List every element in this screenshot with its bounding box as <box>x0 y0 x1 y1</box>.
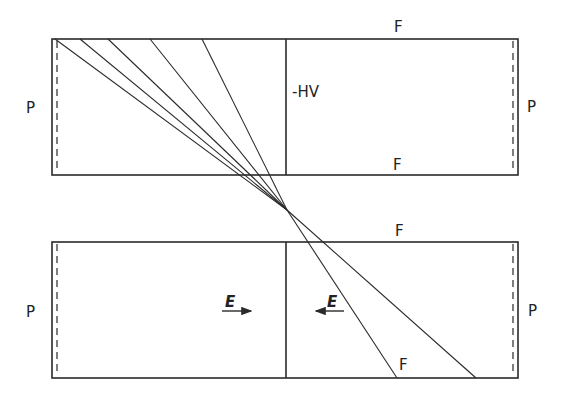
top-chamber <box>52 39 518 175</box>
trajectory-out-1 <box>287 210 397 378</box>
trajectory-out-2 <box>287 210 476 378</box>
label-top-f: F <box>394 18 403 36</box>
label-field-e-right: E <box>327 293 338 311</box>
label-field-e-left: E <box>225 293 236 311</box>
trajectory-5 <box>202 39 287 210</box>
bottom-chamber-frame <box>52 242 518 378</box>
particle-trajectories <box>55 39 476 378</box>
top-chamber-frame <box>52 39 518 175</box>
label-hv: -HV <box>292 83 320 101</box>
label-bottom-right-p: P <box>528 302 537 320</box>
trajectory-3 <box>108 39 287 210</box>
label-bottom-left-p: P <box>26 303 35 321</box>
label-top-left-p: P <box>26 99 35 117</box>
label-top-right-p: P <box>527 98 536 116</box>
trajectory-2 <box>80 39 287 210</box>
bottom-chamber <box>52 242 518 378</box>
label-bottom-top-f: F <box>395 222 404 240</box>
diagram-canvas: P P F F -HV P P F F E E <box>0 0 567 418</box>
label-bottom-inner-f: F <box>399 356 408 374</box>
label-top-bottom-f: F <box>393 156 402 174</box>
